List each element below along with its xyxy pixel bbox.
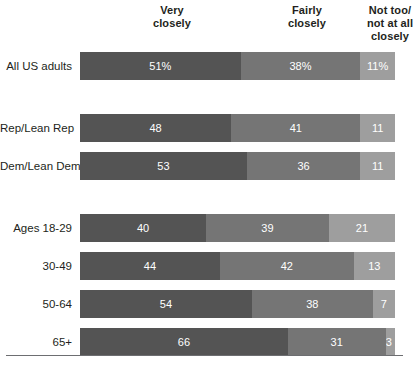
bar-segment: 41 — [231, 114, 360, 142]
chart-row: Ages 18-29403921 — [0, 214, 409, 242]
bar-segment: 48 — [80, 114, 231, 142]
row-label: Ages 18-29 — [0, 214, 72, 242]
column-headers: Very closely Fairly closely Not too/ not… — [80, 4, 395, 46]
bar-segment: 21 — [329, 214, 395, 242]
stacked-bar: 533611 — [80, 152, 395, 180]
chart-row: 30-49444213 — [0, 252, 409, 280]
bar-segment: 44 — [80, 252, 220, 280]
bar-segment: 66 — [80, 328, 288, 356]
row-label: 65+ — [0, 328, 72, 356]
bar-segment: 36 — [247, 152, 360, 180]
bar-segment: 38% — [241, 52, 361, 80]
column-header-line-3: closely — [354, 30, 417, 43]
column-header-line-1: Fairly — [262, 4, 352, 17]
bar-segment: 38 — [252, 290, 373, 318]
chart-row: 65+66313 — [0, 328, 409, 356]
bar-segment: 3 — [386, 328, 395, 356]
bar-segment: 42 — [220, 252, 354, 280]
stacked-bar: 66313 — [80, 328, 395, 356]
bar-segment: 11 — [360, 114, 395, 142]
column-header-line-2: closely — [262, 17, 352, 30]
column-header-fairly-closely: Fairly closely — [262, 4, 352, 30]
bar-segment: 39 — [206, 214, 329, 242]
bar-segment: 40 — [80, 214, 206, 242]
bar-segment: 54 — [80, 290, 252, 318]
bar-segment: 13 — [354, 252, 395, 280]
bottom-rule — [6, 355, 403, 356]
column-header-line-1: Not too/ — [354, 4, 417, 17]
stacked-bar: 51%38%11% — [80, 52, 395, 80]
column-header-very-closely: Very closely — [112, 4, 232, 30]
chart-row: All US adults51%38%11% — [0, 52, 409, 80]
column-header-line-1: Very — [112, 4, 232, 17]
stacked-bar: 54387 — [80, 290, 395, 318]
row-label: 50-64 — [0, 290, 72, 318]
chart-row: Dem/Lean Dem533611 — [0, 152, 409, 180]
row-label: 30-49 — [0, 252, 72, 280]
column-header-line-2: not at all — [354, 17, 417, 30]
stacked-bar: 444213 — [80, 252, 395, 280]
chart-row: Rep/Lean Rep484111 — [0, 114, 409, 142]
column-header-not-too-not-at-all-closely: Not too/ not at all closely — [354, 4, 417, 43]
bar-segment: 53 — [80, 152, 247, 180]
column-header-line-2: closely — [112, 17, 232, 30]
row-label: Dem/Lean Dem — [0, 152, 72, 180]
bar-segment: 11 — [360, 152, 395, 180]
chart-row: 50-6454387 — [0, 290, 409, 318]
bar-segment: 51% — [80, 52, 241, 80]
bar-segment: 7 — [373, 290, 395, 318]
bar-segment: 11% — [360, 52, 395, 80]
stacked-bar: 403921 — [80, 214, 395, 242]
row-label: Rep/Lean Rep — [0, 114, 72, 142]
bar-segment: 31 — [288, 328, 386, 356]
stacked-bar: 484111 — [80, 114, 395, 142]
row-label: All US adults — [0, 52, 72, 80]
